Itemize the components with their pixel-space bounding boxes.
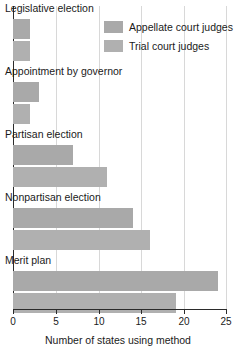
legend-label-appellate: Appellate court judges — [129, 21, 233, 33]
x-tick-label-5: 5 — [53, 316, 59, 328]
bar-nonpartisan-election-trial — [13, 230, 150, 250]
x-tick-10 — [99, 309, 100, 314]
x-tick-15 — [141, 309, 142, 314]
bar-partisan-election-trial — [13, 167, 107, 187]
x-tick-label-25: 25 — [220, 316, 231, 328]
x-tick-0 — [13, 309, 14, 314]
bar-appointment-by-governor-trial — [13, 104, 30, 124]
category-label-merit-plan: Merit plan — [5, 254, 51, 266]
gridline-10 — [99, 6, 100, 309]
bar-merit-plan-trial — [13, 293, 176, 313]
x-axis-title: Number of states using method — [0, 334, 236, 346]
bar-legislative-election-appellate — [13, 19, 30, 39]
bar-nonpartisan-election-appellate — [13, 208, 133, 228]
x-tick-20 — [184, 309, 185, 314]
bar-partisan-election-appellate — [13, 145, 73, 165]
category-label-partisan-election: Partisan election — [5, 128, 83, 140]
x-tick-label-10: 10 — [93, 316, 104, 328]
category-label-appointment-by-governor: Appointment by governor — [5, 65, 122, 77]
x-tick-5 — [56, 309, 57, 314]
category-label-legislative-election: Legislative election — [5, 2, 94, 14]
category-label-nonpartisan-election: Nonpartisan election — [5, 191, 101, 203]
x-tick-label-20: 20 — [178, 316, 189, 328]
x-tick-label-0: 0 — [10, 316, 16, 328]
bar-merit-plan-appellate — [13, 271, 218, 291]
legend-item-appellate-court-judges: Appellate court judges — [104, 19, 233, 35]
x-tick-label-15: 15 — [135, 316, 146, 328]
bar-legislative-election-trial — [13, 41, 30, 61]
bar-chart: 0 5 10 15 20 25 Legislative election App… — [0, 0, 236, 354]
x-axis-line — [13, 309, 227, 310]
legend-item-trial-court-judges: Trial court judges — [104, 38, 233, 54]
x-tick-25 — [226, 309, 227, 314]
legend-swatch-icon-trial — [104, 40, 123, 52]
legend-swatch-icon-appellate — [104, 21, 123, 33]
legend: Appellate court judges Trial court judge… — [104, 19, 233, 57]
bar-appointment-by-governor-appellate — [13, 82, 39, 102]
legend-label-trial: Trial court judges — [129, 40, 209, 52]
